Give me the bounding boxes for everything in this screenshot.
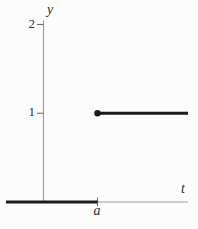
y-tick-label-2: 2 bbox=[23, 17, 35, 31]
x-axis-label: t bbox=[181, 182, 185, 197]
step-function-figure: y 2 1 a t bbox=[0, 0, 198, 229]
closed-endpoint-dot bbox=[94, 110, 100, 116]
y-axis-label: y bbox=[47, 3, 53, 18]
x-tick-label-a: a bbox=[90, 204, 104, 219]
y-tick-label-1: 1 bbox=[23, 105, 35, 119]
